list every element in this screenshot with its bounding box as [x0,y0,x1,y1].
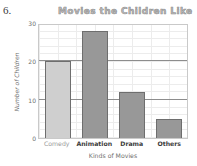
y-axis-title-container: Number of Children [10,24,22,139]
chart-title: Movies the Children Like [58,6,176,16]
x-tick-animation: Animation [76,140,114,147]
x-axis-title: Kinds of Movies [38,152,188,159]
y-tick-10: 10 [14,97,36,104]
x-tick-comedy: Comedy [38,140,76,147]
y-tick-20: 20 [14,58,36,65]
worksheet-page: 6. Movies the Children Like Number of Ch… [0,0,197,166]
x-axis-tick-labels: ComedyAnimationDramaOthers [38,140,188,150]
bar-series [39,25,187,138]
bar-animation [82,31,108,138]
question-number: 6. [3,4,11,16]
x-tick-others: Others [151,140,189,147]
plot-area [38,24,188,139]
x-tick-drama: Drama [113,140,151,147]
bar-comedy [45,61,71,138]
y-tick-30: 30 [14,20,36,27]
bar-drama [119,92,145,138]
bar-others [156,119,182,138]
y-tick-0: 0 [14,135,36,142]
